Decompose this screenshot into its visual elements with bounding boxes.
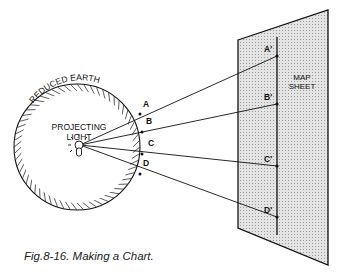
point-d-label: D <box>143 158 149 168</box>
point-b-prime-label: B' <box>264 92 272 102</box>
light-label: LIGHT <box>66 132 91 142</box>
point-d-prime-label: D' <box>264 205 272 215</box>
sheet-label: SHEET <box>289 82 316 91</box>
point-a-label: A <box>143 99 149 109</box>
chart-projection-diagram: REDUCED EARTH PROJECTING LIGHT A B C D A… <box>0 0 340 277</box>
figure-caption: Fig.8-16. Making a Chart. <box>24 250 154 262</box>
point-b-label: B <box>146 116 152 126</box>
map-label: MAP <box>293 73 310 82</box>
projecting-label: PROJECTING <box>52 122 107 132</box>
map-sheet <box>238 10 328 265</box>
point-c-label: C <box>148 138 154 148</box>
point-c-prime-label: C' <box>264 154 272 164</box>
point-a-prime-label: A' <box>264 44 272 54</box>
